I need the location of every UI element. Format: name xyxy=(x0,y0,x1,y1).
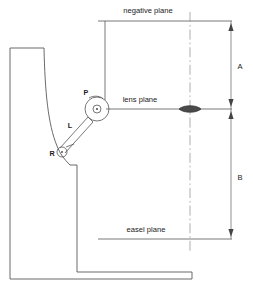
enlarger-geometry-diagram: negative plane lens plane easel plane A … xyxy=(0,0,253,286)
diagram-canvas: negative plane lens plane easel plane A … xyxy=(0,0,253,286)
enlarger-column-outline xyxy=(10,48,77,272)
column-curved-right-edge xyxy=(44,48,70,165)
negative-plane-label: negative plane xyxy=(123,6,172,15)
column-lower-shoulder xyxy=(70,165,77,272)
plane-labels-group: negative plane lens plane easel plane xyxy=(123,6,173,234)
pivot-r-center-dot xyxy=(61,151,63,153)
dimension-labels-group: A B xyxy=(237,62,243,182)
lens-biconvex-shape xyxy=(179,106,201,113)
arrowhead-negative-down xyxy=(228,23,233,31)
arrowhead-b-down xyxy=(228,111,233,119)
linkage-arm-head-cap xyxy=(88,117,93,122)
baseboard-outline xyxy=(10,272,192,279)
link-l-label: L xyxy=(68,121,73,130)
arrowhead-a-up xyxy=(228,99,233,107)
dimension-a-label: A xyxy=(237,62,243,71)
lens-plane-label: lens plane xyxy=(123,95,158,104)
plane-lines-group xyxy=(98,21,232,239)
dimension-line-group xyxy=(228,21,233,239)
easel-plane-label: easel plane xyxy=(127,225,166,234)
point-r-label: R xyxy=(49,149,55,158)
arrowhead-easel-up xyxy=(228,229,233,237)
dimension-b-label: B xyxy=(237,173,242,182)
lens-head-center-dot xyxy=(96,108,98,110)
lens-element xyxy=(179,106,201,113)
point-p-label: P xyxy=(84,88,89,97)
linkage-arm-pivot-tab xyxy=(66,144,74,147)
enlarger-baseboard xyxy=(10,272,192,279)
